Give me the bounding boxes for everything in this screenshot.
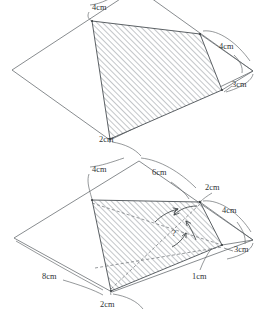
bottom-leader-6cm — [171, 182, 189, 199]
label-bottom-2cm-top: 2cm — [205, 183, 220, 192]
top-arc-2cm — [112, 142, 141, 156]
label-bottom-4cm-right: 4cm — [222, 206, 237, 215]
label-bottom-1cm: 1cm — [192, 272, 207, 281]
top-leader-4cm-right — [234, 55, 242, 73]
label-top-4cm-left: 4cm — [92, 3, 107, 12]
bottom-arc-6cm — [141, 158, 196, 188]
figure-canvas: 4cm 4cm 3cm 2cm — [0, 0, 267, 320]
label-top-4cm-right: 4cm — [219, 42, 234, 51]
top-vertex-topright — [199, 33, 201, 35]
bottom-leader-4cm-left — [88, 174, 92, 199]
bottom-arc-2cm-bottom — [113, 294, 143, 309]
geometry-figure-root: 4cm 4cm 3cm 2cm — [0, 0, 267, 320]
bottom-vertex-right — [221, 244, 223, 246]
label-top-3cm: 3cm — [232, 80, 247, 89]
label-bottom-unknown-angle: ? — [172, 228, 176, 238]
bottom-leader-8cm — [63, 280, 103, 295]
bottom-leader-4cm-right — [237, 222, 245, 244]
top-vertex-right — [221, 89, 223, 91]
top-shaded-quadrilateral — [92, 21, 222, 139]
label-bottom-3cm: 3cm — [234, 245, 249, 254]
label-bottom-6cm: 6cm — [152, 168, 167, 177]
bottom-figure: 4cm 6cm 2cm 4cm 3cm 1cm 8cm 2cm ? — [14, 158, 253, 309]
label-top-2cm: 2cm — [99, 135, 114, 144]
top-figure: 4cm 4cm 3cm 2cm — [12, 0, 253, 156]
bottom-vertex-topleft — [91, 199, 93, 201]
label-bottom-4cm-left: 4cm — [92, 165, 107, 174]
label-bottom-2cm-bottom: 2cm — [100, 300, 115, 309]
bottom-arc-8cm — [16, 241, 103, 290]
label-bottom-8cm: 8cm — [42, 272, 57, 281]
